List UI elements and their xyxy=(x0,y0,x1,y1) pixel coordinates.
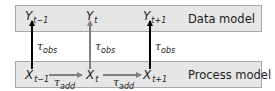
node-x-t-plus-1: Xt+1 xyxy=(143,69,167,84)
tau-obs-label-3: τobs xyxy=(155,41,175,55)
tau-obs-label-1: τobs xyxy=(37,41,57,55)
node-y-t-plus-1: Yt+1 xyxy=(143,10,166,25)
tau-add-label-1: τadd xyxy=(54,77,75,91)
node-x-t: Xt xyxy=(86,69,98,84)
tau-add-label-2: τadd xyxy=(113,77,134,91)
tau-obs-label-2: τobs xyxy=(95,41,115,55)
node-y-t: Yt xyxy=(86,10,97,25)
node-x-t-minus-1: Xt−1 xyxy=(25,69,49,84)
node-y-t-minus-1: Yt−1 xyxy=(25,10,48,25)
